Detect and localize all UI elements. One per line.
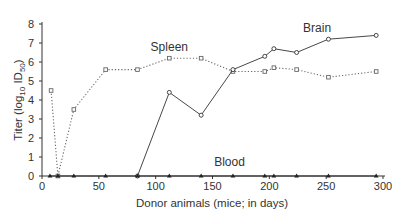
square-marker-icon <box>136 68 140 72</box>
x-tick-label: 50 <box>93 180 105 192</box>
circle-marker-icon <box>231 68 235 72</box>
x-tick-label: 200 <box>260 180 278 192</box>
x-tick-label: 300 <box>374 180 392 192</box>
titer-line-chart: 012345678050100150200250300 SpleenBrainB… <box>0 0 407 221</box>
y-tick-label: 1 <box>28 151 34 163</box>
square-marker-icon <box>199 56 203 60</box>
x-tick-label: 250 <box>317 180 335 192</box>
y-axis-label: Titer (log10 ID50) <box>12 59 27 140</box>
circle-marker-icon <box>167 90 171 94</box>
square-marker-icon <box>104 68 108 72</box>
square-marker-icon <box>295 68 299 72</box>
series-brain <box>135 33 378 178</box>
circle-marker-icon <box>272 47 276 51</box>
square-marker-icon <box>263 70 267 74</box>
y-tick-label: 5 <box>28 75 34 87</box>
series-layer <box>48 33 379 178</box>
square-marker-icon <box>72 108 76 112</box>
y-tick-label: 7 <box>28 37 34 49</box>
square-marker-icon <box>327 75 331 79</box>
square-marker-icon <box>272 66 276 70</box>
square-marker-icon <box>168 56 172 60</box>
circle-marker-icon <box>374 33 378 37</box>
circle-marker-icon <box>295 51 299 55</box>
circle-marker-icon <box>326 37 330 41</box>
series-label-spleen: Spleen <box>151 40 188 54</box>
y-tick-label: 2 <box>28 132 34 144</box>
axes: 012345678050100150200250300 <box>28 18 392 192</box>
y-tick-label: 4 <box>28 94 34 106</box>
y-tick-label: 3 <box>28 113 34 125</box>
series-label-blood: Blood <box>214 155 245 169</box>
x-tick-label: 150 <box>203 180 221 192</box>
x-axis-label: Donor animals (mice; in days) <box>136 197 288 209</box>
square-marker-icon <box>374 70 378 74</box>
x-tick-label: 100 <box>146 180 164 192</box>
series-labels: SpleenBrainBlood <box>151 21 331 169</box>
circle-marker-icon <box>263 54 267 58</box>
brain-line <box>138 35 377 176</box>
series-label-brain: Brain <box>303 21 331 35</box>
circle-marker-icon <box>199 113 203 117</box>
y-tick-label: 6 <box>28 56 34 68</box>
y-tick-label: 8 <box>28 18 34 30</box>
square-marker-icon <box>49 89 53 93</box>
y-tick-label: 0 <box>28 170 34 182</box>
x-tick-label: 0 <box>39 180 45 192</box>
